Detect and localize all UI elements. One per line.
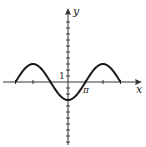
function-graph: x y π 1: [0, 0, 146, 147]
x-axis-label: x: [136, 83, 143, 96]
y-axis-arrow-icon: [65, 8, 71, 15]
x-tick-label-pi: π: [82, 85, 90, 95]
y-axis-label: y: [72, 5, 80, 18]
y-tick-label-one: 1: [59, 71, 65, 81]
axes: [3, 8, 142, 145]
